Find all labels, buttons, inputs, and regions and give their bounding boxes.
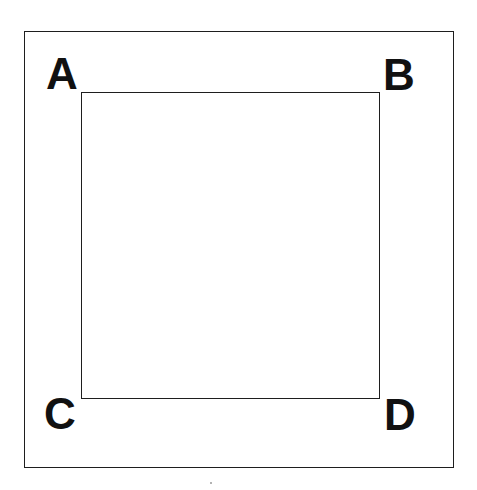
- corner-label-b: B: [383, 53, 415, 97]
- corner-label-d: D: [384, 393, 416, 437]
- corner-label-c: C: [44, 392, 76, 436]
- corner-label-a: A: [46, 52, 78, 96]
- inner-square: [81, 92, 380, 399]
- scan-speck: [210, 482, 212, 484]
